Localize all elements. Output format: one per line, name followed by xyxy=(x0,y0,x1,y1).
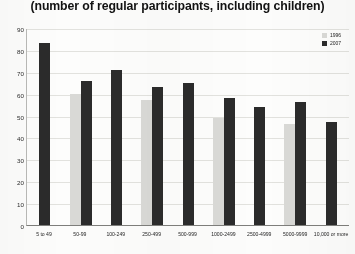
bar-2007-2500-4999 xyxy=(254,107,265,225)
x-axis-tick-label: 1000-2499 xyxy=(205,229,241,254)
x-axis-tick-label: 5000-9999 xyxy=(277,229,313,254)
x-axis-tick-label: 5 to 49 xyxy=(26,229,62,254)
bar-group xyxy=(242,29,278,225)
bar-group xyxy=(206,29,242,225)
y-axis-tick-30: 30 xyxy=(17,157,24,164)
plot-area: 0102030405060708090 xyxy=(26,29,349,226)
bar-group xyxy=(27,29,63,225)
bar-2007-5-to-49 xyxy=(39,43,50,225)
y-axis-tick-10: 10 xyxy=(17,201,24,208)
bar-1996-50-99 xyxy=(70,94,81,225)
gridline-0: 0 xyxy=(27,226,349,227)
bar-group xyxy=(277,29,313,225)
bar-1996-1000-2499 xyxy=(213,118,224,225)
legend-item-1996: 1996 xyxy=(322,33,341,38)
x-axis-tick-label: 2500-4999 xyxy=(241,229,277,254)
bar-2007-100-249 xyxy=(111,70,122,225)
bar-group xyxy=(63,29,99,225)
y-axis-tick-60: 60 xyxy=(17,91,24,98)
x-axis-labels: 5 to 4950-99100-249250-499500-9991000-24… xyxy=(26,229,349,254)
bar-group xyxy=(99,29,135,225)
bar-2007-50-99 xyxy=(81,81,92,225)
legend-item-2007: 2007 xyxy=(322,41,341,46)
x-axis-tick-label: 250-499 xyxy=(134,229,170,254)
chart-legend: 19962007 xyxy=(322,33,341,46)
bar-2007-5000-9999 xyxy=(295,102,306,225)
y-axis-tick-50: 50 xyxy=(17,113,24,120)
y-axis-tick-40: 40 xyxy=(17,135,24,142)
x-axis-tick-label: 500-999 xyxy=(170,229,206,254)
bar-1996-250-499 xyxy=(141,100,152,225)
bar-2007-10-000-or-more xyxy=(326,122,337,225)
bar-1996-5000-9999 xyxy=(284,124,295,225)
y-axis-tick-90: 90 xyxy=(17,26,24,33)
bar-group xyxy=(313,29,349,225)
y-axis-tick-80: 80 xyxy=(17,47,24,54)
bar-2007-500-999 xyxy=(183,83,194,225)
legend-swatch-2007 xyxy=(322,41,327,46)
y-axis-tick-0: 0 xyxy=(21,223,24,230)
bar-group xyxy=(134,29,170,225)
x-axis-tick-label: 10,000 or more xyxy=(313,229,349,254)
bar-group xyxy=(170,29,206,225)
y-axis-tick-20: 20 xyxy=(17,179,24,186)
x-axis-tick-label: 100-249 xyxy=(98,229,134,254)
chart-title: (number of regular participants, includi… xyxy=(0,0,355,13)
bar-2007-250-499 xyxy=(152,87,163,225)
legend-swatch-1996 xyxy=(322,33,327,38)
legend-label-1996: 1996 xyxy=(330,33,341,38)
y-axis-tick-70: 70 xyxy=(17,69,24,76)
bar-2007-1000-2499 xyxy=(224,98,235,225)
bar-series-layer xyxy=(27,29,349,225)
legend-label-2007: 2007 xyxy=(330,41,341,46)
x-axis-tick-label: 50-99 xyxy=(62,229,98,254)
chart-container: (number of regular participants, includi… xyxy=(0,0,355,254)
